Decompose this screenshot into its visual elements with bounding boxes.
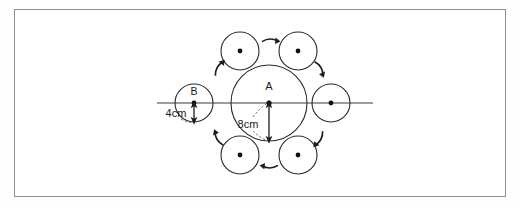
arrow-lower-left-icon [211,128,226,147]
dimension-4cm: 4cm [166,104,194,122]
figure-canvas: A B [0,0,520,208]
label-circle-a: A [265,80,273,92]
circle-lower-left [221,136,259,174]
label-8cm: 8cm [238,118,259,130]
dimension-8cm: 8cm [238,104,269,140]
arrow-top-icon [262,37,280,44]
circle-upper-right [279,32,317,70]
leader-8cm-upper [253,104,266,117]
arrow-upper-left-icon [212,58,227,77]
arrow-lower-right-icon [311,130,326,149]
circle-lower-right [279,136,317,174]
arrow-bottom-icon [260,163,278,170]
geometry-diagram: A B [0,0,520,208]
arrow-upper-right-icon [313,60,328,79]
label-circle-b: B [190,85,197,97]
circle-upper-left [221,32,259,70]
label-4cm: 4cm [166,107,187,119]
